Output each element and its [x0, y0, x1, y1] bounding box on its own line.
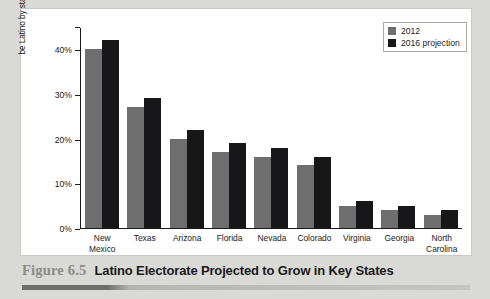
bar-arizona-2016-projection [187, 130, 204, 228]
x-axis-label-new-mexico: NewMexico [81, 233, 123, 254]
x-axis-label-line: Colorado [293, 233, 335, 244]
legend-label-2012: 2012 [401, 26, 420, 36]
y-tick-label-20: 20% [55, 135, 72, 145]
bar-texas-2016-projection [144, 98, 161, 228]
x-axis-label-line: Nevada [251, 233, 293, 244]
x-axis-label-line: Virginia [336, 233, 378, 244]
x-axis-label-line: Texas [123, 233, 165, 244]
y-tick-label-10: 10% [55, 179, 72, 189]
bar-group [81, 28, 123, 228]
y-tick-label-0: 0% [60, 224, 72, 234]
bar-group [420, 28, 462, 228]
legend-swatch-2012 [388, 27, 396, 35]
bar-florida-2016-projection [229, 143, 246, 228]
bar-group [335, 28, 377, 228]
figure-number: Figure 6.5 [22, 262, 87, 279]
x-axis-label-florida: Florida [208, 233, 250, 254]
y-tick-0 [75, 229, 80, 230]
chart-legend: 2012 2016 projection [383, 22, 467, 52]
legend-item-2016-projection: 2016 projection [388, 38, 460, 48]
y-axis-title: Percent of eligible vote that is and wil… [17, 0, 51, 43]
x-axis-label-virginia: Virginia [336, 233, 378, 254]
x-axis-label-georgia: Georgia [378, 233, 420, 254]
y-tick-30 [75, 95, 80, 96]
x-axis-label-line: Mexico [81, 244, 123, 255]
legend-swatch-2016-projection [388, 39, 396, 47]
x-axis-label-arizona: Arizona [166, 233, 208, 254]
bar-georgia-2012 [381, 210, 398, 228]
figure-title: Latino Electorate Projected to Grow in K… [95, 263, 394, 278]
x-axis-label-line: New [81, 233, 123, 244]
bar-florida-2012 [212, 152, 229, 228]
x-axis-label-line: North [421, 233, 463, 244]
bar-virginia-2012 [339, 206, 356, 228]
bar-groups [81, 28, 462, 228]
bar-north-carolina-2012 [424, 215, 441, 228]
bar-new-mexico-2016-projection [102, 40, 119, 228]
x-axis-line [80, 228, 462, 229]
figure-container: Percent of eligible vote that is and wil… [0, 0, 490, 299]
x-axis-label-north-carolina: NorthCarolina [421, 233, 463, 254]
y-tick-20 [75, 140, 80, 141]
x-axis-category-labels: NewMexicoTexasArizonaFloridaNevadaColora… [81, 233, 463, 254]
bar-virginia-2016-projection [356, 201, 373, 228]
x-axis-label-line: Carolina [421, 244, 463, 255]
y-tick-40 [75, 50, 80, 51]
bar-nevada-2012 [254, 157, 271, 228]
bar-texas-2012 [127, 107, 144, 228]
figure-caption: Figure 6.5 Latino Electorate Projected t… [22, 262, 394, 279]
bar-georgia-2016-projection [398, 206, 415, 228]
bar-group [293, 28, 335, 228]
bar-group [377, 28, 419, 228]
x-axis-label-texas: Texas [123, 233, 165, 254]
x-axis-label-colorado: Colorado [293, 233, 335, 254]
x-axis-label-line: Florida [208, 233, 250, 244]
y-tick-label-40: 40% [55, 45, 72, 55]
legend-item-2012: 2012 [388, 26, 460, 36]
legend-label-2016-projection: 2016 projection [401, 38, 460, 48]
bar-arizona-2012 [170, 139, 187, 228]
chart-card: Percent of eligible vote that is and wil… [20, 8, 472, 256]
bar-north-carolina-2016-projection [441, 210, 458, 228]
plot-area: 0%10%20%30%40% [80, 28, 462, 229]
caption-rule [22, 285, 470, 290]
bar-group [166, 28, 208, 228]
bar-group [208, 28, 250, 228]
bar-group [123, 28, 165, 228]
bar-new-mexico-2012 [85, 49, 102, 228]
bar-nevada-2016-projection [271, 148, 288, 228]
y-tick-10 [75, 184, 80, 185]
bar-colorado-2012 [297, 165, 314, 228]
x-axis-label-line: Georgia [378, 233, 420, 244]
y-axis-top-cap [75, 27, 80, 28]
x-axis-label-line: Arizona [166, 233, 208, 244]
y-tick-label-30: 30% [55, 90, 72, 100]
bar-colorado-2016-projection [314, 157, 331, 228]
x-axis-label-nevada: Nevada [251, 233, 293, 254]
y-axis-title-line-2: be Latino by state [17, 0, 27, 54]
bar-group [250, 28, 292, 228]
